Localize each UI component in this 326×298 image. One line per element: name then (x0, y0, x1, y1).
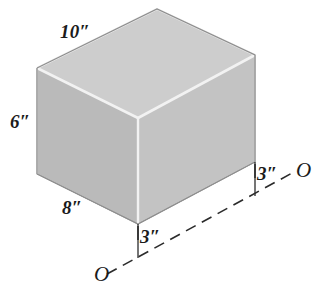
dimension-label-offset-front: 3″ (140, 227, 160, 246)
dimension-label-length: 10″ (60, 22, 90, 41)
box-diagram-svg (0, 0, 326, 298)
origin-label-right: O (296, 160, 311, 181)
dimension-label-depth: 8″ (62, 198, 82, 217)
figure-container: 10″ 6″ 8″ 3″ 3″ O O (0, 0, 326, 298)
dimension-label-offset-right: 3″ (257, 164, 277, 183)
origin-label-front: O (94, 264, 109, 285)
dimension-label-height: 6″ (10, 112, 30, 131)
